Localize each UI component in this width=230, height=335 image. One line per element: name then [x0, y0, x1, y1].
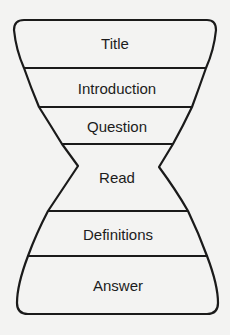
hourglass-outline — [14, 20, 218, 314]
hourglass-diagram: Title Introduction Question Read Definit… — [0, 0, 230, 335]
section-title-label: Title — [101, 35, 129, 52]
section-answer-label: Answer — [93, 277, 143, 294]
section-question-label: Question — [87, 118, 147, 135]
section-introduction-label: Introduction — [78, 80, 156, 97]
section-read-label: Read — [99, 169, 135, 186]
section-definitions-label: Definitions — [83, 226, 153, 243]
